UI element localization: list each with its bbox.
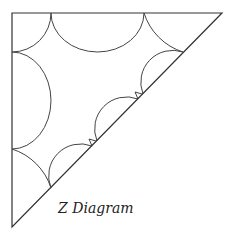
diagonal-arc-2	[95, 97, 138, 141]
z-diagram	[0, 0, 230, 232]
top-semicircle	[51, 13, 144, 52]
top-right-corner-arc	[144, 13, 183, 52]
outer-triangle	[12, 13, 222, 227]
diagonal-arc-3	[141, 50, 183, 94]
diagonal-arc-1	[49, 144, 92, 188]
bottom-corner-arc	[12, 149, 51, 188]
top-left-corner-arc	[12, 13, 51, 52]
diagram-caption: Z Diagram	[58, 200, 134, 216]
left-semicircle	[12, 52, 51, 149]
